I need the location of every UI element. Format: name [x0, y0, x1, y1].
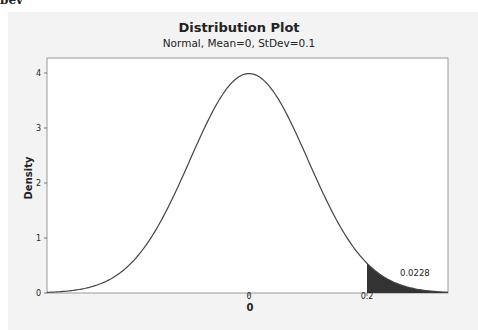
y-tick-label: 1 — [36, 234, 41, 243]
plot-area: 0 1 2 3 4 Density — [0, 0, 478, 330]
y-tick-label: 0 — [36, 289, 41, 298]
tail-probability-annotation: 0.0228 — [400, 268, 430, 278]
plot-frame — [47, 58, 448, 293]
y-axis-label: Density — [23, 156, 34, 199]
x-tick-label: 0 — [239, 292, 259, 301]
y-tick-label: 2 — [36, 179, 41, 188]
y-tick-label: 4 — [36, 69, 41, 78]
x-tick-label: 0.2 — [357, 292, 377, 301]
y-tick-label: 3 — [36, 124, 41, 133]
x-axis-label: 0 — [243, 302, 257, 313]
y-axis: 0 1 2 3 4 Density — [23, 69, 47, 298]
